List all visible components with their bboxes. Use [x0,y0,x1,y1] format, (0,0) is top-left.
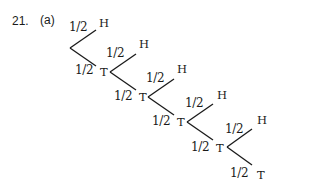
prob-1-up: 1/2 [69,21,87,33]
prob-3-up: 1/2 [146,72,164,84]
outcome-3-down: T [177,117,185,129]
outcome-3-up: H [177,64,187,76]
outcome-1-up: H [99,18,109,30]
outcome-1-down: T [100,67,108,79]
prob-2-down: 1/2 [114,90,132,102]
branch-5-down [227,147,252,165]
outcome-4-down: T [216,143,224,155]
outcome-2-down: T [139,92,147,104]
branch-2-down [110,72,136,90]
prob-5-down: 1/2 [230,167,248,179]
prob-3-down: 1/2 [152,115,170,127]
outcome-2-up: H [139,39,149,51]
branch-4-down [187,122,213,140]
prob-2-up: 1/2 [106,47,124,59]
prob-4-up: 1/2 [185,97,203,109]
prob-5-up: 1/2 [225,123,243,135]
prob-4-down: 1/2 [191,141,209,153]
branch-3-down [148,97,174,115]
outcome-4-up: H [217,90,227,102]
outcome-5-down: T [257,170,265,182]
outcome-5-up: H [257,115,267,127]
prob-1-down: 1/2 [75,64,93,76]
